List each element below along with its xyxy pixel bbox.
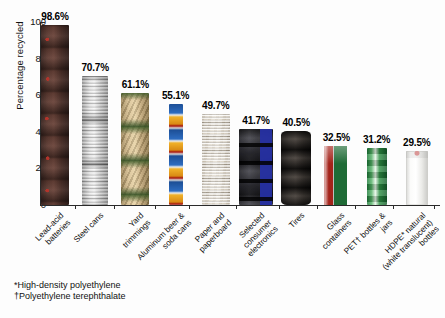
footnotes: *High-density polyethylene †Polyethylene… bbox=[14, 280, 126, 302]
value-label-2: 61.1% bbox=[111, 79, 159, 90]
y-tick-mark bbox=[40, 22, 45, 23]
bar-consumer-electronics bbox=[239, 129, 273, 205]
x-tick bbox=[279, 205, 280, 209]
x-tick bbox=[355, 205, 356, 209]
bar-glass-containers bbox=[323, 146, 349, 205]
bar-paper-paperboard bbox=[202, 114, 230, 205]
x-tick bbox=[155, 205, 156, 209]
recycling-rate-bar-chart: Percentage recycled 020406080100 98.6%70… bbox=[0, 0, 445, 318]
value-label-0: 98.6% bbox=[31, 11, 79, 22]
value-label-9: 29.5% bbox=[393, 137, 441, 148]
x-tick bbox=[434, 205, 435, 209]
bar-tires bbox=[281, 131, 311, 205]
bar-lead-acid-batteries bbox=[41, 25, 69, 205]
x-tick bbox=[189, 205, 190, 209]
value-label-6: 40.5% bbox=[272, 117, 320, 128]
bar-yard-trimmings bbox=[121, 93, 149, 205]
x-tick bbox=[236, 205, 237, 209]
footnote-hdpe: *High-density polyethylene bbox=[14, 280, 126, 291]
bar-aluminum-cans bbox=[169, 104, 183, 205]
value-label-1: 70.7% bbox=[71, 62, 119, 73]
value-label-4: 49.7% bbox=[192, 100, 240, 111]
x-tick bbox=[114, 205, 115, 209]
x-tick bbox=[317, 205, 318, 209]
x-tick bbox=[393, 205, 394, 209]
bar-pet-bottles bbox=[367, 148, 387, 205]
x-axis-line bbox=[40, 205, 440, 206]
bar-hdpe-bottles bbox=[406, 151, 428, 205]
x-tick bbox=[75, 205, 76, 209]
bar-steel-cans bbox=[82, 76, 108, 205]
footnote-pet: †Polyethylene terephthalate bbox=[14, 291, 126, 302]
